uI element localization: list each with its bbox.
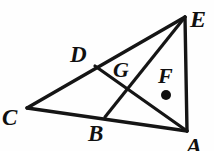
segment-EA [185,17,187,131]
marked-points [161,90,171,100]
label-F: F [158,65,173,87]
label-B: B [88,122,103,145]
cevians [95,17,187,131]
label-C: C [2,106,17,129]
point-F-dot [161,90,171,100]
segment-CA [27,108,187,131]
label-G: G [113,59,129,81]
label-E: E [190,7,206,31]
label-D: D [70,43,87,66]
figure-canvas [0,0,214,151]
geometry-figure: E D G F C B A [0,0,214,151]
label-A: A [186,134,202,151]
